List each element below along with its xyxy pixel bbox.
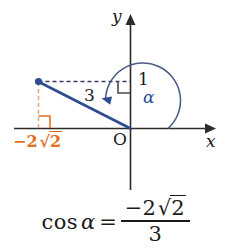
x-coordinate-label: −2√2 [13,134,62,150]
formula-equals-sign: = [99,210,117,234]
numerator-coefficient: 2 [142,196,155,220]
formula-argument: α [81,210,95,234]
origin-label: O [113,131,127,148]
angle-label: α [143,89,154,106]
cosine-formula: cos α = −2√2 3 [0,196,231,248]
y-axis-label: y [112,8,122,25]
numerator-radicand: 2 [170,195,185,220]
formula-denominator: 3 [145,222,166,245]
ray-length-label: 3 [84,87,95,104]
formula-numerator: −2√2 [121,197,190,220]
right-angle-mark-dark [118,82,130,94]
formula-function-name: cos [41,210,78,234]
y-axis [126,14,136,190]
angle-arc-arrowhead [102,97,113,105]
x-coordinate-sign: −2 [13,132,38,151]
terminal-point [35,78,42,85]
x-axis-label: x [206,133,216,150]
vertical-leg-label: 1 [138,71,149,88]
formula-fraction: −2√2 3 [121,197,190,245]
numerator-radical: √2 [156,197,186,219]
y-axis-arrowhead [126,14,136,25]
x-coordinate-radical: √2 [38,134,63,150]
x-coordinate-radicand: 2 [49,131,62,151]
numerator-sign: − [125,196,143,220]
right-angle-mark-orange [39,116,51,128]
